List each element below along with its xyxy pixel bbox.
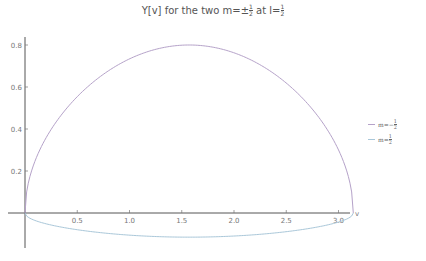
legend-item-m-half: m=12 xyxy=(368,132,397,147)
y-tick-label: 0.6 xyxy=(11,84,23,92)
axes: 0.51.01.52.02.53.00.20.40.60.8v xyxy=(8,37,359,248)
x-tick-label: 2.5 xyxy=(281,217,292,225)
legend: m=−12 m=12 xyxy=(368,117,397,147)
y-tick-label: 0.4 xyxy=(11,126,23,134)
series-group xyxy=(25,45,353,237)
x-tick-label: 0.5 xyxy=(72,217,83,225)
x-tick-label: 1.0 xyxy=(124,217,135,225)
legend-swatch xyxy=(368,124,375,125)
series-line-0 xyxy=(25,45,353,213)
x-tick-label: 1.5 xyxy=(176,217,187,225)
y-tick-label: 0.8 xyxy=(11,42,22,50)
x-tick-label: 2.0 xyxy=(228,217,239,225)
plot-area: 0.51.01.52.02.53.00.20.40.60.8v xyxy=(0,0,426,261)
legend-swatch xyxy=(368,139,375,140)
legend-item-m-neg-half: m=−12 xyxy=(368,117,397,132)
x-axis-label: v xyxy=(355,210,359,218)
y-tick-label: 0.2 xyxy=(11,168,22,176)
